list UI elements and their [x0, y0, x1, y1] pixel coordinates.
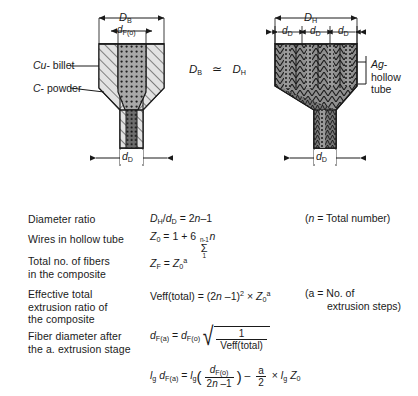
- formula-label-fiber-diameter-1: Fiber diameter after: [28, 330, 131, 343]
- fibre-column-2: [306, 44, 312, 88]
- square-root: √1Veff(total): [201, 326, 270, 351]
- db-label: DB: [119, 11, 132, 25]
- fibre-column-1: [284, 44, 290, 88]
- tube-rod-core: [320, 110, 325, 148]
- formula-label-veff-3: the composite: [28, 313, 107, 326]
- ag-hollow-tube-callout: Ag- hollow tube: [371, 58, 401, 96]
- formula-equation-veff: Veff(total) = (2n –1)2 × Z0a: [150, 287, 270, 306]
- dd-segment-label-1: dD: [282, 25, 293, 38]
- dh-label: DH: [304, 11, 317, 25]
- formula-label-total-fibers-1: Total no. of fibers: [28, 255, 110, 268]
- fibre-column-3: [328, 44, 334, 86]
- formula-equation-diameter-ratio: DH/dD = 2n–1: [150, 212, 212, 228]
- process-diagram: [0, 0, 418, 200]
- db-approx-dh-relation: DB ≃ DH: [189, 62, 246, 77]
- ag-leader-line: [357, 56, 366, 84]
- right-tube-group: [272, 18, 366, 166]
- dd-segment-label-2: dD: [310, 25, 321, 38]
- formula-row-wires: Wires in hollow tube: [28, 233, 153, 246]
- dd-segment-label-3: dD: [338, 25, 349, 38]
- cu-billet-left-wall: [99, 44, 120, 110]
- left-billet-group: [70, 18, 167, 166]
- dd-label-right: dD: [316, 150, 327, 164]
- cu-billet-callout: Cu- billet: [33, 59, 74, 71]
- formula-label-fiber-diameter-2: the a. extrusion stage: [28, 343, 131, 356]
- figure-canvas: DB dF(o) dD Cu- billet C- powder DB ≃ DH…: [0, 0, 418, 396]
- formula-equation-fiber-diameter: dF(a) = dF(o)√1Veff(total): [150, 326, 270, 351]
- formula-row-fiber-diameter: Fiber diameter after the a. extrusion st…: [28, 330, 131, 355]
- formula-note-n: (n = Total number): [305, 212, 390, 225]
- formula-label-total-fibers-2: in the composite: [28, 268, 110, 281]
- formula-label-veff-2: extrusion ratio of: [28, 301, 107, 314]
- extruded-rod-core: [126, 110, 137, 148]
- formula-label-wires: Wires in hollow tube: [28, 233, 153, 246]
- formula-row-total-fibers: Total no. of fibers in the composite: [28, 255, 110, 280]
- formula-row-diameter-ratio: Diameter ratio: [28, 213, 148, 226]
- formula-equation-log: lg dF(a) = lg(dF(o)2n –1) – a2 × lg Z0: [150, 364, 301, 389]
- dd-label-left: dD: [122, 150, 133, 164]
- dfo-label: dF(o): [117, 24, 136, 37]
- formula-label-diameter-ratio: Diameter ratio: [28, 213, 148, 226]
- formula-note-a: ((a = No. ofa = No. of extrusion steps): [305, 287, 401, 313]
- formula-block: Diameter ratio DH/dD = 2n–1 (n = Total n…: [0, 200, 418, 396]
- fibre-column-4: [345, 44, 351, 86]
- formula-equation-total-fibers: ZF = Z0a: [150, 254, 187, 273]
- formula-row-veff: Effective total extrusion ratio of the c…: [28, 288, 107, 326]
- formula-label-veff-1: Effective total: [28, 288, 107, 301]
- summation-symbol: n-1 Σ 1: [200, 237, 209, 260]
- c-powder-callout: C- powder: [33, 82, 81, 94]
